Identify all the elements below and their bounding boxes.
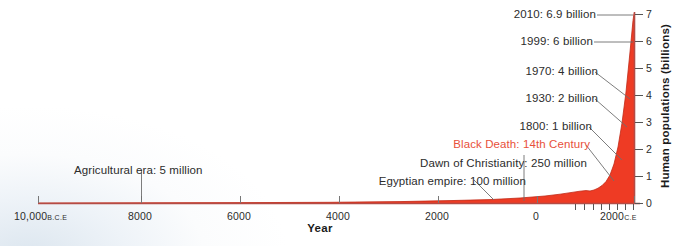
x-axis-title: Year (0, 222, 640, 234)
y-tick-label-0: 0 (646, 197, 652, 209)
x-tick-era: C.E (624, 214, 637, 221)
y-axis-title: Human populations (billions) (655, 8, 675, 204)
annotation-pop-1800: 1800: 1 billion (520, 120, 592, 132)
x-tick-label-8000: 8000 (128, 210, 152, 222)
x-tick-era: B.C.E (47, 214, 67, 221)
y-tick-label-1: 1 (646, 170, 652, 182)
annotation-pop-1930: 1930: 2 billion (526, 92, 598, 104)
population-growth-chart: 2010: 6.9 billion 1999: 6 billion 1970: … (0, 0, 691, 246)
annotation-dawn-of-christianity: Dawn of Christianity: 250 million (420, 157, 587, 169)
x-tick-label-10000-bce: 10,000B.C.E (14, 210, 67, 222)
annotation-agricultural-era: Agricultural era: 5 million (74, 164, 203, 176)
y-ticks (635, 15, 643, 204)
y-tick-label-6: 6 (646, 35, 652, 47)
y-tick-label-3: 3 (646, 116, 652, 128)
x-tick-label-2000-bce: 2000 (425, 210, 449, 222)
leader-1930 (595, 99, 627, 127)
annotation-egyptian-empire: Egyptian empire: 100 million (379, 175, 526, 187)
x-tick-label-0: 0 (533, 210, 539, 222)
x-tick-label-4000: 4000 (326, 210, 350, 222)
y-tick-label-2: 2 (646, 143, 652, 155)
y-tick-label-7: 7 (646, 8, 652, 20)
annotation-pop-1999: 1999: 6 billion (521, 35, 593, 47)
y-tick-label-4: 4 (646, 89, 652, 101)
annotation-black-death: Black Death: 14th Century (453, 138, 590, 150)
leader-black-death (586, 145, 614, 181)
annotation-pop-2010: 2010: 6.9 billion (514, 8, 596, 20)
leader-1970 (595, 72, 630, 99)
x-tick-value: 10,000 (14, 210, 47, 222)
x-tick-value: 2000 (600, 210, 624, 222)
x-tick-label-2000-ce: 2000C.E (600, 210, 637, 222)
annotation-pop-1970: 1970: 4 billion (526, 65, 598, 77)
x-tick-label-6000: 6000 (227, 210, 251, 222)
y-tick-label-5: 5 (646, 62, 652, 74)
